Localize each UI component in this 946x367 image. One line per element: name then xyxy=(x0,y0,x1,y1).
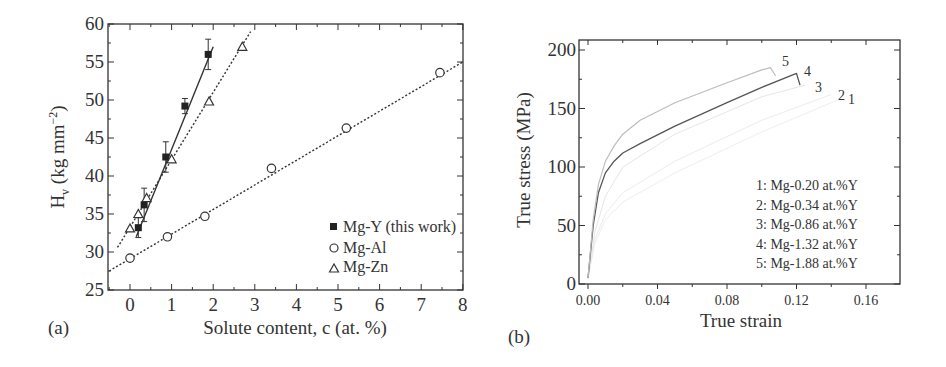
panel-b-y-axis-title: True stress (MPa) xyxy=(513,92,535,227)
x-tick-label: 0.04 xyxy=(645,293,670,308)
panel-a-label: (a) xyxy=(48,317,69,339)
x-tick-label: 8 xyxy=(458,294,468,315)
legend-filled-square-icon xyxy=(330,223,337,230)
circle-marker xyxy=(163,233,171,241)
panel-b-x-tick-labels: 0.000.040.080.120.16 xyxy=(576,293,879,308)
x-tick-label: 2 xyxy=(208,294,218,315)
curve-label: 5 xyxy=(782,54,789,69)
legend-item: 5: Mg-1.88 at.%Y xyxy=(756,256,858,271)
x-tick-label: 0 xyxy=(125,294,135,315)
x-tick-label: 0.00 xyxy=(576,293,601,308)
curve-label: 1 xyxy=(848,92,855,107)
figure: 2530354045505560 012345678 Solute conten… xyxy=(0,0,946,367)
fit-line xyxy=(136,47,213,237)
panel-b: 050100150200 0.000.040.080.120.16 True s… xyxy=(508,39,900,348)
curve-label: 3 xyxy=(815,80,822,95)
x-tick-label: 5 xyxy=(333,294,343,315)
square-marker xyxy=(162,154,169,161)
legend-item: 1: Mg-0.20 at.%Y xyxy=(756,178,858,193)
panel-a-y-axis-title: Hv (kg mm−2) xyxy=(46,105,72,208)
x-tick-label: 0.16 xyxy=(854,293,879,308)
y-tick-label: 45 xyxy=(85,127,104,148)
y-tick-label: 60 xyxy=(85,13,104,34)
panel-b-y-tick-labels: 050100150200 xyxy=(548,39,577,294)
triangle-marker xyxy=(126,224,135,232)
y-tick-label: 30 xyxy=(85,241,104,262)
triangle-marker xyxy=(238,42,247,50)
y-tick-label: 25 xyxy=(85,279,104,300)
fit-line xyxy=(109,62,463,271)
panel-b-legend: 1: Mg-0.20 at.%Y2: Mg-0.34 at.%Y3: Mg-0.… xyxy=(756,178,858,271)
panel-a-x-tick-labels: 012345678 xyxy=(125,294,467,315)
x-tick-label: 6 xyxy=(375,294,385,315)
x-tick-label: 0.08 xyxy=(715,293,740,308)
y-tick-label: 50 xyxy=(557,215,576,236)
y-tick-label: 35 xyxy=(85,203,104,224)
stress-strain-curve xyxy=(588,68,776,279)
square-marker xyxy=(141,201,148,208)
legend-item: 3: Mg-0.86 at.%Y xyxy=(756,217,858,232)
x-tick-label: 4 xyxy=(292,294,302,315)
y-tick-label: 0 xyxy=(567,273,577,294)
legend-item-mg-y: Mg-Y (this work) xyxy=(343,218,456,236)
circle-marker xyxy=(436,68,444,76)
legend-item-mg-al: Mg-Al xyxy=(343,239,387,257)
curve-label: 2 xyxy=(838,88,845,103)
y-tick-label: 55 xyxy=(85,51,104,72)
legend-item: 4: Mg-1.32 at.%Y xyxy=(756,237,858,252)
y-tick-label: 200 xyxy=(548,39,577,60)
x-tick-label: 0.12 xyxy=(784,293,809,308)
panel-a-x-axis-title: Solute content, c (at. %) xyxy=(203,317,387,339)
triangle-marker xyxy=(134,210,143,218)
x-tick-label: 1 xyxy=(167,294,177,315)
circle-marker xyxy=(342,124,350,132)
panel-a-frame xyxy=(108,24,463,290)
panel-b-label: (b) xyxy=(508,326,530,348)
x-tick-label: 3 xyxy=(250,294,260,315)
triangle-marker xyxy=(205,97,214,105)
y-tick-label: 100 xyxy=(548,156,577,177)
square-marker xyxy=(135,224,142,231)
panel-a-fit-lines xyxy=(109,32,463,271)
x-tick-label: 7 xyxy=(416,294,426,315)
curve-label: 4 xyxy=(804,64,811,79)
legend-open-circle-icon xyxy=(330,244,338,252)
legend-open-triangle-icon xyxy=(330,264,339,272)
panel-a-ticks xyxy=(108,24,463,290)
y-tick-label: 40 xyxy=(85,165,104,186)
y-tick-label: 150 xyxy=(548,98,577,119)
square-marker xyxy=(205,51,212,58)
panel-a-y-tick-labels: 2530354045505560 xyxy=(85,13,104,300)
legend-item-mg-zn: Mg-Zn xyxy=(343,258,388,276)
legend-item: 2: Mg-0.34 at.%Y xyxy=(756,198,858,213)
circle-marker xyxy=(126,254,134,262)
circle-marker xyxy=(267,164,275,172)
panel-a-legend: Mg-Y (this work) Mg-Al Mg-Zn xyxy=(330,218,457,276)
y-tick-label: 50 xyxy=(85,89,104,110)
panel-b-x-axis-title: True strain xyxy=(700,310,783,331)
panel-a: 2530354045505560 012345678 Solute conten… xyxy=(46,13,468,339)
square-marker xyxy=(181,103,188,110)
circle-marker xyxy=(201,212,209,220)
